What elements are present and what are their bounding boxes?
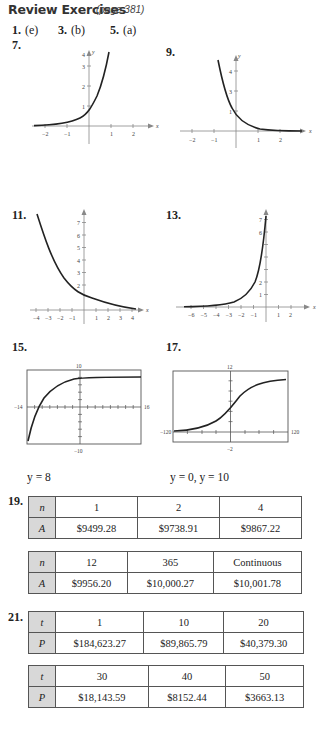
exercise-15-label: 15. — [12, 340, 27, 355]
svg-text:7: 7 — [77, 220, 80, 226]
table-row: A $9499.28 $9738.91 $9867.22 — [29, 518, 302, 539]
svg-text:3: 3 — [82, 64, 85, 70]
table-cell: $9867.22 — [220, 518, 302, 539]
calculator-graph-exercise-15: 10 −10 −14 16 — [14, 360, 154, 456]
table-row: A $9956.20 $10,000.27 $10,001.78 — [29, 573, 302, 594]
svg-text:−1: −1 — [64, 131, 70, 137]
table-cell: $89,865.79 — [144, 633, 224, 654]
answer-value: (b) — [71, 23, 85, 37]
svg-text:2: 2 — [259, 280, 262, 286]
table-row: n 1 2 4 — [29, 497, 302, 518]
x-axis-label: x — [145, 307, 149, 313]
svg-text:4: 4 — [82, 52, 85, 58]
table-cell: $10,001.78 — [213, 573, 301, 594]
svg-text:1: 1 — [110, 131, 113, 137]
table-cell: Continuous — [213, 552, 301, 573]
answer-1: 1. (e) — [12, 20, 38, 38]
x-axis-label: x — [312, 304, 316, 310]
row-header: t — [29, 666, 56, 687]
svg-text:−1: −1 — [211, 137, 217, 143]
answer-5: 5. (a) — [110, 20, 136, 38]
ymin-label: −10 — [74, 448, 83, 454]
row-header: P — [29, 687, 56, 708]
svg-text:6: 6 — [77, 233, 80, 239]
ymin-label: −2 — [227, 446, 233, 452]
svg-text:−4: −4 — [213, 312, 219, 318]
answer-number: 3. — [58, 23, 67, 37]
graph-exercise-9: −2−112 134 x y — [178, 52, 318, 152]
table-cell: $3663.13 — [226, 687, 304, 708]
x-axis-label: x — [155, 123, 159, 129]
y-axis-label: y — [237, 53, 241, 59]
svg-text:−1: −1 — [251, 312, 257, 318]
table-cell: $18,143.59 — [56, 687, 149, 708]
table-row: t 1 10 20 — [29, 612, 304, 633]
answer-3: 3. (b) — [58, 20, 85, 38]
row-header: t — [29, 612, 56, 633]
table-cell: 40 — [148, 666, 226, 687]
asymptote-exercise-17: y = 0, y = 10 — [170, 471, 229, 483]
svg-text:−2: −2 — [57, 315, 63, 321]
table-cell: $9738.91 — [138, 518, 220, 539]
answer-value: (a) — [123, 23, 136, 37]
table-exercise-21-part1: t 1 10 20 P $184,623.27 $89,865.79 $40,3… — [28, 611, 304, 654]
svg-text:4: 4 — [131, 315, 134, 321]
table-cell: 2 — [138, 497, 220, 518]
calculator-graph-exercise-17: 12 −2 −120 120 — [160, 362, 327, 458]
row-header: P — [29, 633, 56, 654]
svg-text:2: 2 — [289, 312, 292, 318]
svg-text:1: 1 — [95, 315, 98, 321]
row-header: n — [29, 552, 56, 573]
svg-text:−5: −5 — [201, 312, 207, 318]
ymax-label: 10 — [76, 363, 82, 369]
table-cell: 50 — [226, 666, 304, 687]
svg-text:4: 4 — [229, 69, 232, 75]
svg-text:−1: −1 — [69, 315, 75, 321]
exercise-21-label: 21. — [8, 610, 23, 625]
ymax-label: 12 — [227, 364, 233, 370]
table-exercise-19-part1: n 1 2 4 A $9499.28 $9738.91 $9867.22 — [28, 496, 302, 539]
svg-text:3: 3 — [229, 89, 232, 95]
svg-text:−2: −2 — [238, 312, 244, 318]
svg-text:−4: −4 — [33, 315, 39, 321]
svg-text:2: 2 — [132, 131, 135, 137]
asymptote-exercise-15: y = 8 — [27, 471, 51, 483]
exercise-19-label: 19. — [8, 494, 23, 509]
svg-text:−2: −2 — [42, 131, 48, 137]
table-cell: 1 — [56, 497, 138, 518]
table-row: P $184,623.27 $89,865.79 $40,379.30 — [29, 633, 304, 654]
svg-text:3: 3 — [77, 270, 80, 276]
table-cell: 365 — [127, 552, 213, 573]
table-row: n 12 365 Continuous — [29, 552, 302, 573]
svg-text:4: 4 — [77, 258, 80, 264]
xmax-label: 16 — [144, 404, 150, 410]
table-cell: $40,379.30 — [224, 633, 304, 654]
graph-exercise-11: −4−3−2−1 1234 234567 x — [26, 206, 156, 326]
graph-exercise-13: −6−5−4−3 −2−112 1267 x — [172, 206, 322, 326]
answer-number: 5. — [110, 23, 119, 37]
svg-text:1: 1 — [229, 109, 232, 115]
xmax-label: 120 — [291, 429, 300, 435]
page-reference: (page 381) — [96, 4, 144, 15]
y-axis-label: y — [91, 49, 95, 55]
table-cell: 20 — [224, 612, 304, 633]
svg-text:2: 2 — [77, 283, 80, 289]
table-exercise-21-part2: t 30 40 50 P $18,143.59 $8152.44 $3663.1… — [28, 665, 304, 708]
table-cell: $8152.44 — [148, 687, 226, 708]
svg-text:1: 1 — [257, 137, 260, 143]
answer-number: 1. — [12, 23, 21, 37]
svg-text:−6: −6 — [188, 312, 194, 318]
exercise-11-label: 11. — [12, 208, 26, 223]
table-row: P $18,143.59 $8152.44 $3663.13 — [29, 687, 304, 708]
row-header: A — [29, 573, 56, 594]
x-axis-label: x — [308, 128, 312, 134]
xmin-label: −14 — [14, 404, 23, 410]
table-cell: $184,623.27 — [56, 633, 144, 654]
table-cell: 10 — [144, 612, 224, 633]
exercise-9-label: 9. — [166, 45, 175, 60]
row-header: A — [29, 518, 56, 539]
exercise-7-label: 7. — [12, 38, 21, 53]
svg-text:1: 1 — [82, 104, 85, 110]
svg-text:2: 2 — [279, 137, 282, 143]
svg-text:−3: −3 — [45, 315, 51, 321]
